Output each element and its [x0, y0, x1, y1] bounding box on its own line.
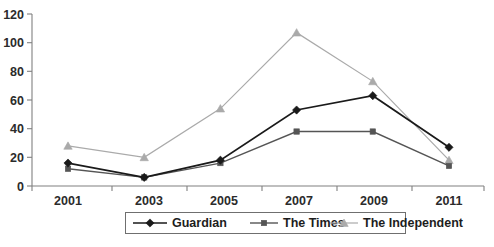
y-tick-label-100: 100 — [3, 36, 24, 50]
legend-swatch-marker-the-times — [261, 220, 266, 225]
y-tick-label-60: 60 — [10, 94, 24, 108]
x-tick-label-2007: 2007 — [285, 194, 313, 208]
y-axis-labels: 120 100 80 60 40 20 0 — [3, 8, 24, 194]
y-tick-label-40: 40 — [10, 122, 24, 136]
legend: GuardianThe TimesThe Independent — [133, 216, 464, 230]
legend-label-guardian: Guardian — [172, 216, 227, 230]
series-layer — [64, 29, 453, 182]
data-point-the-times-2011 — [446, 163, 451, 168]
y-tick-label-120: 120 — [3, 8, 24, 22]
y-tick-label-20: 20 — [10, 151, 24, 165]
x-tick-label-2001: 2001 — [54, 194, 82, 208]
series-the-independent — [64, 29, 453, 164]
x-tick-label-2005: 2005 — [210, 194, 238, 208]
chart-canvas: 120 100 80 60 40 20 0 2001 2003 2005 200… — [0, 0, 494, 247]
line-chart: 120 100 80 60 40 20 0 2001 2003 2005 200… — [0, 0, 494, 247]
y-tick-label-0: 0 — [17, 180, 24, 194]
x-axis-ticks — [32, 186, 484, 191]
legend-label-the-independent: The Independent — [363, 216, 464, 230]
x-axis-labels: 2001 2003 2005 2007 2009 2011 — [54, 194, 463, 208]
data-point-the-times-2009 — [370, 129, 375, 134]
y-tick-label-80: 80 — [10, 65, 24, 79]
x-tick-label-2009: 2009 — [360, 194, 388, 208]
series-line-guardian — [68, 96, 449, 178]
series-guardian — [64, 92, 453, 182]
x-tick-label-2003: 2003 — [135, 194, 163, 208]
data-point-the-times-2007 — [294, 129, 299, 134]
y-axis-ticks — [27, 14, 32, 186]
x-tick-label-2011: 2011 — [435, 194, 462, 208]
data-point-the-independent-2007 — [292, 29, 300, 36]
series-line-the-independent — [68, 33, 449, 161]
data-point-the-independent-2009 — [369, 77, 377, 84]
data-point-the-independent-2001 — [64, 142, 72, 149]
